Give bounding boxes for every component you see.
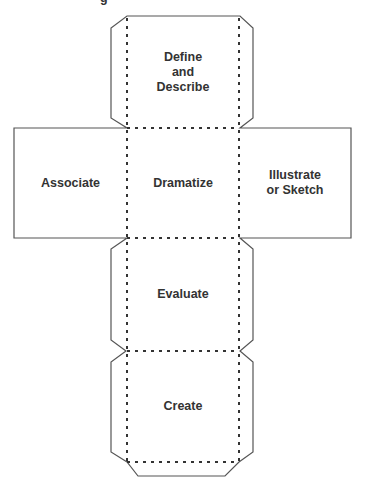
face-center-dramatize: Dramatize: [127, 128, 239, 238]
face-left-associate: Associate: [14, 128, 127, 238]
face-lower-evaluate: Evaluate: [127, 238, 239, 351]
face-top-define-and-describe: Define and Describe: [127, 16, 239, 128]
face-right-illustrate-or-sketch: Illustrate or Sketch: [239, 128, 351, 238]
cube-net-diagram: g Define and Describe Associate Dramatiz…: [0, 0, 367, 496]
face-bottom-create: Create: [127, 351, 239, 462]
